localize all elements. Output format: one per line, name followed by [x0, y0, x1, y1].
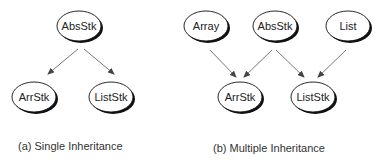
edge-list-liststk [318, 50, 346, 77]
panel-single-inheritance: AbsStk ArrStk ListStk (a) Single Inherit… [12, 11, 135, 152]
node-label: AbsStk [62, 20, 97, 32]
node-liststk: ListStk [89, 82, 135, 114]
edge-absstk-liststk [84, 49, 114, 74]
edge-absstk-arrstk [48, 49, 78, 74]
node-liststk: ListStk [291, 82, 337, 114]
node-label: List [339, 20, 356, 32]
node-label: ArrStk [19, 91, 50, 103]
inheritance-diagram: AbsStk ArrStk ListStk (a) Single Inherit… [0, 0, 391, 167]
caption-multiple-inheritance: (b) Multiple Inheritance [213, 142, 325, 154]
node-absstk: AbsStk [253, 11, 299, 43]
edge-absstk-liststk [276, 50, 304, 77]
edge-absstk-arrstk [244, 50, 272, 77]
node-absstk: AbsStk [57, 11, 103, 43]
caption-single-inheritance: (a) Single Inheritance [18, 140, 123, 152]
node-array: Array [184, 11, 230, 43]
panel-multiple-inheritance: Array AbsStk List ArrStk ListStk (b) Mul… [184, 11, 372, 154]
node-arrstk: ArrStk [218, 82, 264, 114]
edge-array-arrstk [210, 50, 236, 77]
node-label: ArrStk [225, 91, 256, 103]
node-list: List [326, 11, 372, 43]
node-arrstk: ArrStk [12, 82, 58, 114]
node-label: ListStk [296, 91, 330, 103]
node-label: AbsStk [258, 20, 293, 32]
node-label: Array [193, 20, 220, 32]
node-label: ListStk [94, 91, 128, 103]
